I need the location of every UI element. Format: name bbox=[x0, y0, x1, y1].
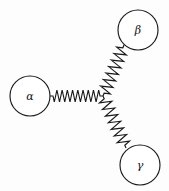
node-alpha[interactable]: α bbox=[10, 76, 50, 116]
spring-junction-to-gamma bbox=[99, 96, 129, 148]
node-beta-label: β bbox=[134, 24, 141, 37]
node-gamma-label: γ bbox=[137, 159, 144, 172]
diagram-canvas: α β γ bbox=[0, 0, 169, 191]
spring-network-diagram: α β γ bbox=[0, 0, 169, 191]
node-beta[interactable]: β bbox=[118, 10, 158, 50]
node-alpha-label: α bbox=[26, 90, 34, 103]
spring-alpha-to-junction bbox=[50, 90, 103, 102]
spring-junction-to-beta bbox=[101, 45, 127, 96]
node-gamma[interactable]: γ bbox=[120, 145, 160, 185]
springs-group bbox=[50, 45, 130, 148]
